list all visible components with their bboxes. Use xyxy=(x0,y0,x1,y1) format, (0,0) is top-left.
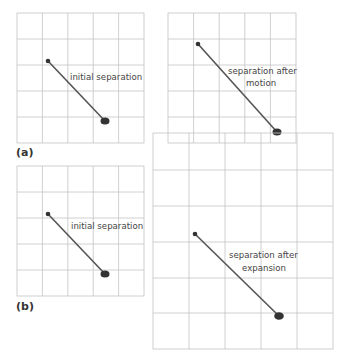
small-dot xyxy=(46,212,51,217)
grid-a-after-motion: separation after motion xyxy=(168,13,297,143)
small-dot xyxy=(196,42,201,47)
caption-initial-separation-a: initial separation xyxy=(70,72,142,82)
small-dot xyxy=(193,232,198,237)
grid-a-initial: initial separation xyxy=(17,13,144,143)
caption-after-motion-line1: separation after xyxy=(228,66,297,76)
grid-b-after-expansion: separation after expansion xyxy=(153,133,333,349)
diagram-canvas: initial separation separation after moti… xyxy=(0,0,344,359)
separation-line xyxy=(195,234,279,316)
caption-after-motion-line2: motion xyxy=(246,78,276,88)
caption-after-expansion-line2: expansion xyxy=(242,263,286,273)
large-dot xyxy=(101,270,110,277)
large-dot xyxy=(273,128,282,135)
large-dot xyxy=(274,312,284,320)
small-dot xyxy=(46,59,51,64)
large-dot xyxy=(101,117,110,124)
caption-initial-separation-b: initial separation xyxy=(71,221,143,231)
panel-label-a: (a) xyxy=(16,146,33,159)
caption-after-expansion-line1: separation after xyxy=(229,250,298,260)
panel-label-b: (b) xyxy=(16,300,34,313)
grid-b-initial: initial separation xyxy=(17,166,144,296)
